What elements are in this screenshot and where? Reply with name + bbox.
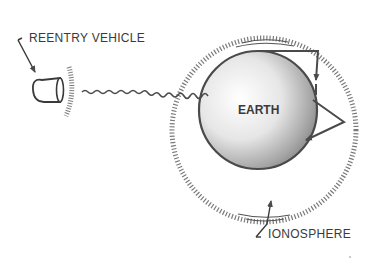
reentry-vehicle-label: REENTRY VEHICLE (29, 31, 145, 45)
reentry-vehicle-callout: REENTRY VEHICLE (18, 31, 145, 72)
radio-wave (82, 91, 208, 99)
reentry-vehicle (33, 67, 72, 116)
speck (349, 256, 351, 258)
earth-label: EARTH (238, 103, 279, 117)
diagram-canvas: EARTH REENTRY VEHICLE IONOSPHERE (0, 0, 371, 259)
earth: EARTH (199, 51, 317, 169)
ionosphere-label: IONOSPHERE (268, 227, 351, 241)
